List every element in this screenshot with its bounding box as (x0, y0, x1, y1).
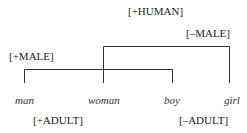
feature-adult: [+ADULT] (33, 115, 83, 126)
feature-not-adult: [–ADULT] (179, 115, 228, 126)
word-girl: girl (224, 95, 240, 106)
word-man: man (15, 95, 34, 106)
feature-male: [+MALE] (9, 51, 54, 62)
feature-not-male: [–MALE] (186, 28, 230, 39)
upper-bracket (104, 47, 230, 84)
lower-bracket (25, 70, 173, 84)
feature-human: [+HUMAN] (128, 6, 183, 17)
word-boy: boy (164, 95, 180, 106)
word-woman: woman (88, 95, 120, 106)
